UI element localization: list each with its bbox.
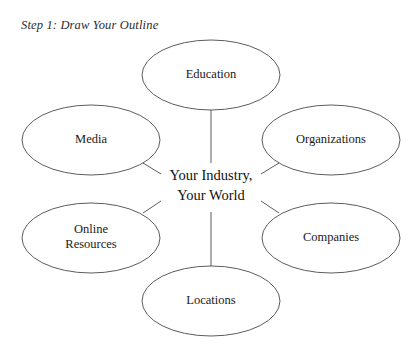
node-ellipse-locations[interactable] — [142, 266, 280, 336]
node-ellipse-online-resources[interactable] — [22, 203, 160, 273]
node-ellipse-media[interactable] — [22, 105, 160, 175]
node-ellipse-organizations[interactable] — [262, 105, 400, 175]
node-ellipse-companies[interactable] — [262, 203, 400, 273]
node-ellipse-education[interactable] — [142, 40, 280, 110]
center-topic-label: Your Industry, Your World — [141, 165, 281, 205]
diagram-canvas: Step 1: Draw Your Outline Education Medi… — [0, 0, 419, 355]
